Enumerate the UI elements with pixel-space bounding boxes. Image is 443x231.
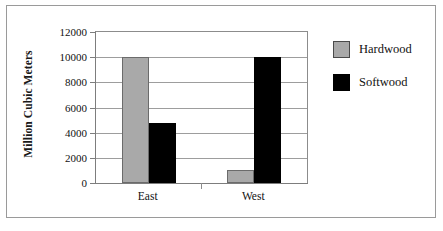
y-tick-8000 — [90, 82, 96, 83]
y-tick-6000 — [90, 108, 96, 109]
y-tick-label-12000: 12000 — [60, 26, 88, 38]
bar-west-softwood — [254, 57, 281, 183]
bar-east-softwood — [149, 123, 176, 183]
legend-swatch-hardwood — [333, 41, 350, 58]
legend-item-softwood[interactable]: Softwood — [333, 74, 412, 91]
x-axis-line — [95, 183, 308, 184]
y-tick-4000 — [90, 133, 96, 134]
y-tick-10000 — [90, 57, 96, 58]
y-tick-2000 — [90, 158, 96, 159]
legend-label-hardwood: Hardwood — [359, 42, 412, 57]
y-axis-title: Million Cubic Meters — [22, 29, 34, 179]
x-axis-label-west: West — [242, 190, 265, 202]
chart-legend: Hardwood Softwood — [333, 41, 412, 107]
y-tick-label-10000: 10000 — [60, 51, 88, 63]
plot-area: 020004000600080001000012000 — [95, 31, 308, 183]
y-tick-label-6000: 6000 — [65, 102, 87, 114]
chart-figure: Million Cubic Meters 0200040006000800010… — [0, 0, 443, 231]
y-tick-12000 — [90, 32, 96, 33]
legend-item-hardwood[interactable]: Hardwood — [333, 41, 412, 58]
legend-label-softwood: Softwood — [359, 75, 408, 90]
bar-east-hardwood — [122, 57, 149, 183]
bar-west-hardwood — [227, 170, 254, 183]
x-axis-label-east: East — [138, 190, 158, 202]
y-tick-label-0: 0 — [82, 177, 88, 189]
x-tick-separator — [201, 183, 202, 189]
y-tick-label-2000: 2000 — [65, 152, 87, 164]
y-tick-label-4000: 4000 — [65, 127, 87, 139]
y-tick-label-8000: 8000 — [65, 76, 87, 88]
legend-swatch-softwood — [333, 74, 350, 91]
